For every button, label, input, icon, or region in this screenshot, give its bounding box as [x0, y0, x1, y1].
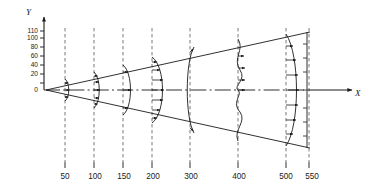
x-tick-label-500: 500 [279, 172, 293, 181]
profile-arrows-100 [94, 76, 100, 104]
y-axis: 110 100 80 60 40 20 0 Y [26, 7, 44, 93]
velocity-profile-200 [152, 57, 164, 123]
y-tick-label-100: 100 [27, 34, 38, 41]
profile-arrows-200 [152, 62, 164, 118]
x-tick-label-550: 550 [305, 172, 319, 181]
y-axis-title: Y [26, 7, 32, 17]
x-axis-title: X [354, 88, 361, 98]
x-tick-label-300: 300 [184, 172, 198, 181]
x-tick-label-150: 150 [117, 172, 131, 181]
x-tick-marks [65, 162, 309, 168]
y-tick-label-110: 110 [27, 27, 38, 34]
profile-ticks-550 [303, 44, 307, 136]
y-tick-label-60: 60 [31, 52, 39, 59]
jet-expansion-diagram: 110 100 80 60 40 20 0 Y X [0, 0, 375, 189]
velocity-profile-550 [303, 32, 307, 148]
velocity-profile-100 [94, 72, 100, 108]
x-tick-label-100: 100 [88, 172, 102, 181]
velocity-profile-500 [286, 34, 299, 146]
y-tick-label-0: 0 [34, 86, 38, 93]
cone-lower-edge [46, 90, 310, 148]
velocity-profile-50 [65, 79, 69, 101]
y-tick-marks [40, 31, 44, 83]
y-tick-label-40: 40 [31, 61, 39, 68]
x-tick-labels: 50 100 150 200 300 400 500 550 [60, 172, 319, 181]
y-tick-label-80: 80 [31, 43, 39, 50]
y-tick-label-20: 20 [31, 70, 39, 77]
x-axis: X [44, 88, 361, 98]
x-tick-label-200: 200 [146, 172, 160, 181]
cone-upper-edge [46, 32, 310, 90]
diagram-canvas: 110 100 80 60 40 20 0 Y X [0, 0, 375, 189]
x-tick-label-50: 50 [60, 172, 70, 181]
x-tick-label-400: 400 [232, 172, 246, 181]
profile-arrows-500 [286, 46, 299, 134]
